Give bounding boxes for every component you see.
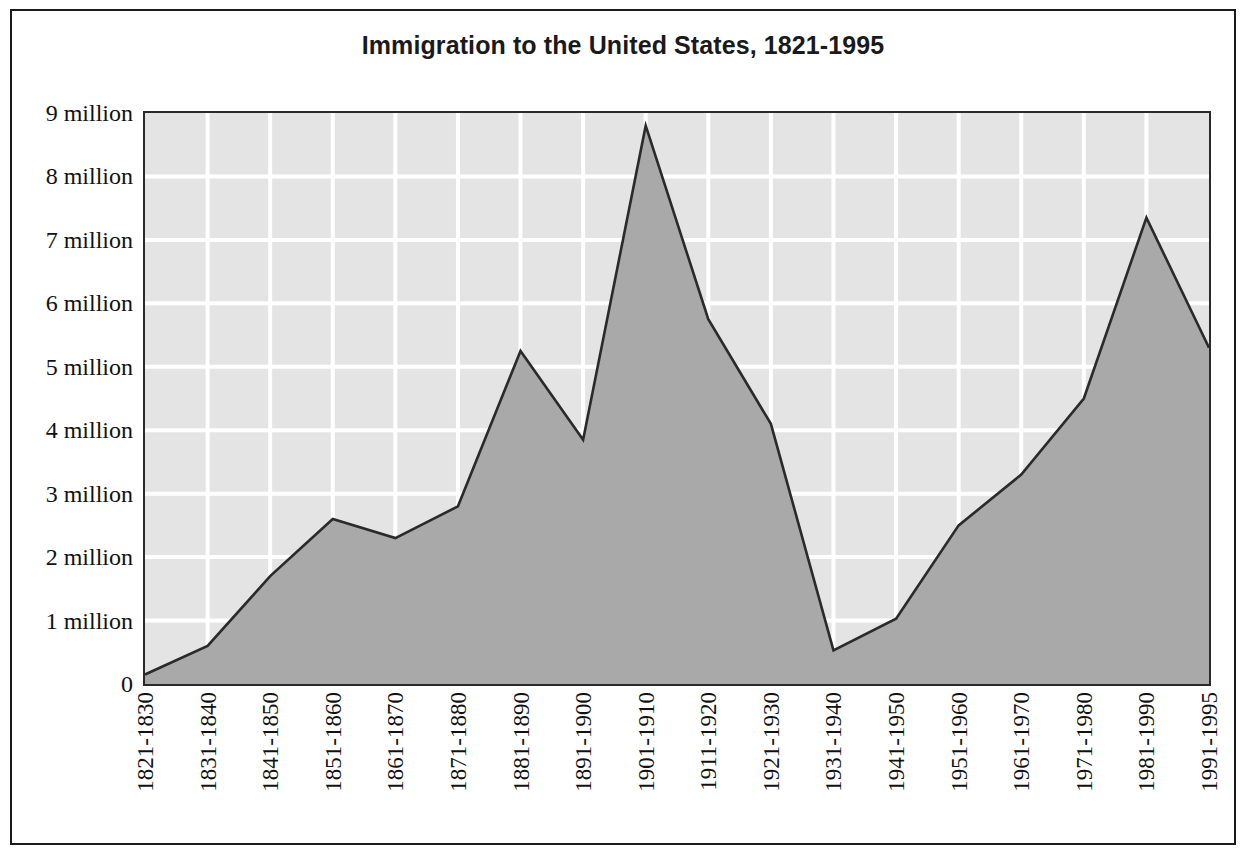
y-axis-tick-label: 1 million — [3, 609, 133, 633]
x-axis-tick-label: 1871-1880 — [446, 692, 469, 792]
x-axis-tick: 1911-1920 — [678, 692, 738, 842]
y-axis-tick-label: 6 million — [3, 291, 133, 315]
x-axis-tick-label: 1881-1890 — [509, 692, 532, 792]
x-axis-tick: 1881-1890 — [491, 692, 551, 842]
x-axis-tick: 1821-1830 — [115, 692, 175, 842]
x-axis-tick-label: 1841-1850 — [259, 692, 282, 792]
y-axis-tick-label: 2 million — [3, 545, 133, 569]
area-chart-svg — [145, 113, 1209, 684]
y-axis-tick-label: 0 — [3, 672, 133, 696]
x-axis-tick: 1971-1980 — [1054, 692, 1114, 842]
y-axis: 01 million2 million3 million4 million5 m… — [0, 111, 133, 686]
y-axis-tick-label: 9 million — [3, 101, 133, 125]
y-axis-tick-label: 8 million — [3, 164, 133, 188]
x-axis-tick-label: 1821-1830 — [134, 692, 157, 792]
x-axis-tick: 1921-1930 — [741, 692, 801, 842]
plot-inner — [145, 113, 1209, 684]
x-axis-tick-label: 1991-1995 — [1198, 692, 1221, 792]
x-axis-tick: 1841-1850 — [240, 692, 300, 842]
x-axis-tick-label: 1831-1840 — [196, 692, 219, 792]
x-axis-tick-label: 1921-1930 — [759, 692, 782, 792]
x-axis-tick: 1931-1940 — [803, 692, 863, 842]
x-axis-tick: 1951-1960 — [929, 692, 989, 842]
x-axis-tick: 1961-1970 — [991, 692, 1051, 842]
x-axis-tick-label: 1961-1970 — [1010, 692, 1033, 792]
x-axis-tick-label: 1861-1870 — [384, 692, 407, 792]
x-axis-tick-label: 1931-1940 — [822, 692, 845, 792]
x-axis-tick: 1991-1995 — [1179, 692, 1239, 842]
y-axis-tick-label: 7 million — [3, 228, 133, 252]
x-axis-tick: 1831-1840 — [178, 692, 238, 842]
y-axis-tick-label: 4 million — [3, 418, 133, 442]
x-axis-tick-label: 1891-1900 — [572, 692, 595, 792]
x-axis-tick-label: 1901-1910 — [634, 692, 657, 792]
x-axis-tick-label: 1981-1990 — [1135, 692, 1158, 792]
x-axis-tick-label: 1951-1960 — [947, 692, 970, 792]
chart-title: Immigration to the United States, 1821-1… — [0, 31, 1246, 60]
area-series-fill — [145, 126, 1209, 684]
x-axis-tick: 1981-1990 — [1116, 692, 1176, 842]
x-axis-tick-label: 1851-1860 — [321, 692, 344, 792]
x-axis-tick-label: 1971-1980 — [1072, 692, 1095, 792]
x-axis-tick-label: 1911-1920 — [697, 692, 720, 791]
x-axis-tick: 1891-1900 — [553, 692, 613, 842]
y-axis-tick-label: 3 million — [3, 482, 133, 506]
x-axis-tick: 1861-1870 — [365, 692, 425, 842]
y-axis-tick-label: 5 million — [3, 355, 133, 379]
x-axis-tick: 1871-1880 — [428, 692, 488, 842]
plot-area — [143, 111, 1211, 686]
x-axis: 1821-18301831-18401841-18501851-18601861… — [143, 692, 1211, 842]
x-axis-tick: 1941-1950 — [866, 692, 926, 842]
x-axis-tick-label: 1941-1950 — [885, 692, 908, 792]
x-axis-tick: 1851-1860 — [303, 692, 363, 842]
x-axis-tick: 1901-1910 — [616, 692, 676, 842]
chart-figure: Immigration to the United States, 1821-1… — [0, 0, 1246, 856]
